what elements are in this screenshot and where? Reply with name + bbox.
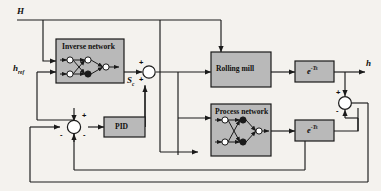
sign-error-plus: + xyxy=(82,112,86,120)
block-label-pid: PID xyxy=(115,123,128,131)
sign-model-minus: - xyxy=(336,107,339,115)
block-label-inverse-network: Inverse network xyxy=(62,43,115,51)
sign-model-plus: + xyxy=(336,89,340,97)
signal-label-h-ref: href xyxy=(13,64,24,75)
signal-label-control: Sc xyxy=(127,76,134,87)
sign-control-plus-bottom: + xyxy=(139,76,143,84)
block-label-rolling-mill: Rolling mill xyxy=(216,65,254,73)
sign-error-minus-bottom: - xyxy=(83,131,86,139)
summing-junction-model-error[interactable] xyxy=(339,97,352,110)
block-diagram-canvas: H href Sc h Inverse network Rolling mill… xyxy=(0,0,381,191)
sign-error-minus-left: - xyxy=(60,131,63,139)
signal-label-H: H xyxy=(17,7,24,16)
diagram-wiring xyxy=(0,0,381,191)
signal-label-output-h: h xyxy=(366,59,371,68)
block-label-delay-top: e-Ts xyxy=(307,66,318,75)
summing-junction-error[interactable] xyxy=(67,120,80,133)
sign-control-plus-top: + xyxy=(139,59,143,67)
block-label-delay-bottom: e-Ts xyxy=(307,125,318,134)
block-label-process-network: Process network xyxy=(215,108,268,116)
summing-junction-control[interactable] xyxy=(143,66,155,78)
